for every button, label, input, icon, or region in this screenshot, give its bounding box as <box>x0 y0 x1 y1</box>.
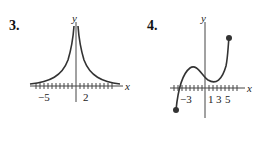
graph-4-y-label: y <box>200 12 206 24</box>
graph-3-tick: 2 <box>83 91 89 103</box>
graph-3: y x −5 2 <box>30 12 130 103</box>
graph-3-y-label: y <box>71 12 77 24</box>
graph-3-tick: −5 <box>38 91 50 103</box>
graphs: y x −5 2 y x −3 1 3 5 <box>0 0 267 164</box>
graph-4-tick: 1 <box>208 93 214 105</box>
graph-3-x-label: x <box>124 80 130 92</box>
endpoint-end <box>226 35 232 41</box>
endpoint-start <box>173 107 179 113</box>
graph-4-tick: −3 <box>180 93 192 105</box>
graph-4-x-label: x <box>246 82 252 94</box>
graph-4: y x −3 1 3 5 <box>170 12 252 118</box>
graph-4-tick: 3 <box>216 93 222 105</box>
graph-4-tick: 5 <box>225 93 231 105</box>
